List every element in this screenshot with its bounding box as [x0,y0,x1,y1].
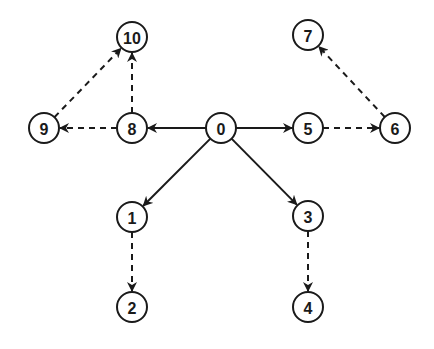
node-label: 5 [304,121,313,138]
node-6: 6 [380,113,410,143]
graph-diagram: 012345678910 [0,0,434,349]
node-label: 0 [217,121,226,138]
node-4: 4 [293,292,323,322]
node-8: 8 [117,113,147,143]
node-label: 7 [304,28,313,45]
node-label: 2 [128,300,137,317]
edge-9-to-10 [54,49,120,118]
node-0: 0 [206,113,236,143]
nodes-layer: 012345678910 [29,20,410,322]
edge-0-to-3 [232,139,297,205]
node-label: 9 [40,121,49,138]
node-label: 3 [304,209,313,226]
node-7: 7 [293,20,323,50]
edge-6-to-7 [319,47,385,117]
node-1: 1 [117,202,147,232]
node-label: 4 [304,300,313,317]
node-9: 9 [29,113,59,143]
node-label: 1 [128,210,137,227]
node-5: 5 [293,113,323,143]
node-10: 10 [117,22,147,52]
edges-layer [54,47,384,291]
node-2: 2 [117,292,147,322]
node-label: 6 [391,121,400,138]
node-label: 10 [123,30,141,47]
node-label: 8 [128,121,137,138]
node-3: 3 [293,201,323,231]
edge-0-to-1 [143,139,210,206]
